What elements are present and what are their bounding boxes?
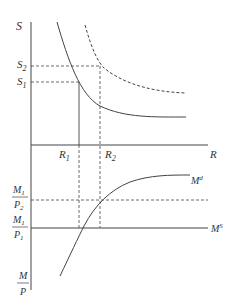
svg-text:M1: M1 [12,184,25,197]
svg-text:M: M [18,270,28,281]
money-demand-label: Md [190,174,203,186]
svg-text:P2: P2 [13,199,24,212]
r-axis-label: R [209,148,217,160]
r2-label: R2 [104,148,116,163]
s-axis-label: S [16,19,22,33]
money-demand-curve [60,175,190,276]
money-supply-label: MS [210,222,223,234]
m-over-p-axis-label: M P [17,270,29,297]
r1-label: R1 [58,148,70,163]
m1p2-label: M1 P2 [12,184,28,212]
svg-text:P: P [19,286,26,297]
s1-label: S1 [17,75,27,90]
svg-text:P1: P1 [13,229,24,242]
solid-curve-upper [57,22,186,117]
s2-label: S2 [17,58,27,73]
svg-text:M1: M1 [12,214,25,227]
is-lm-diagram: S S2 S1 R1 R2 R M1 P2 M1 P1 M P Md MS [0,0,235,308]
m1p1-label: M1 P1 [12,214,28,242]
